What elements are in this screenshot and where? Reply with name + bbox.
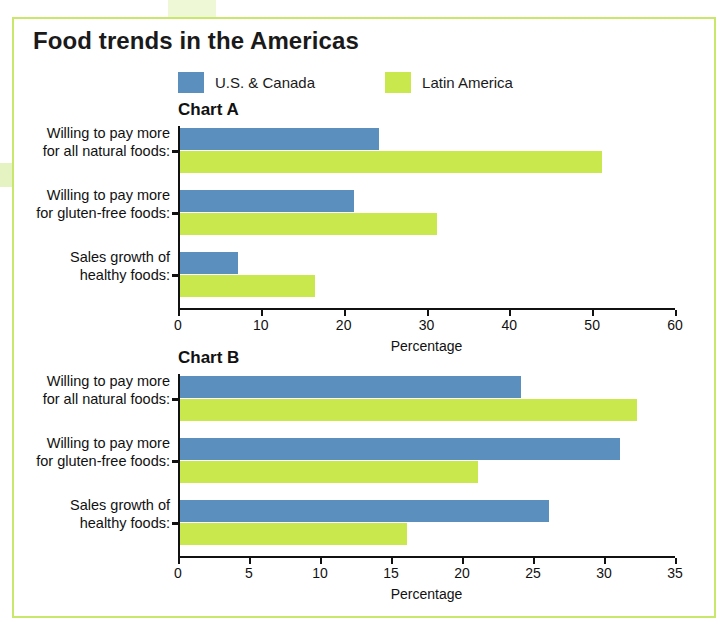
chart-b-xtick-2 <box>320 558 322 564</box>
category-label-line: for gluten-free foods: <box>10 204 170 222</box>
chart-a-bar-0-latin-america <box>180 151 602 173</box>
chart-a-xtick-label-6: 60 <box>667 317 683 333</box>
category-label-line: healthy foods: <box>10 514 170 532</box>
legend-label-us-canada: U.S. & Canada <box>215 74 315 91</box>
chart-a-bar-0-us-canada <box>180 128 379 150</box>
chart-a-bar-1-us-canada <box>180 190 354 212</box>
legend-label-latin-america: Latin America <box>422 74 513 91</box>
chart-legend: U.S. & Canada Latin America <box>178 72 513 93</box>
chart-b-xtick-label-5: 25 <box>525 565 541 581</box>
chart-a-xtick-label-4: 40 <box>502 317 518 333</box>
chart-b-xtick-label-6: 30 <box>596 565 612 581</box>
chart-b-bar-0-latin-america <box>180 399 637 421</box>
chart-a-bar-1-latin-america <box>180 213 437 235</box>
chart-b-category-label-1: Willing to pay morefor gluten-free foods… <box>10 434 170 470</box>
chart-b-xtick-label-2: 10 <box>312 565 328 581</box>
chart-b-plot-area: Percentage 05101520253035 <box>178 374 675 556</box>
chart-a-xtick-1 <box>261 310 263 316</box>
chart-b-xtick-0 <box>178 558 180 564</box>
page-title: Food trends in the Americas <box>33 27 359 55</box>
legend-item-us-canada: U.S. & Canada <box>178 72 315 93</box>
legend-swatch-us-canada <box>178 72 204 93</box>
chart-a-heading: Chart A <box>178 100 239 120</box>
chart-b-xtick-7 <box>675 558 677 564</box>
chart-page: Food trends in the Americas U.S. & Canad… <box>0 0 728 632</box>
category-label-line: for all natural foods: <box>10 142 170 160</box>
chart-b-ytick-2 <box>172 522 180 525</box>
chart-a-bar-2-us-canada <box>180 252 238 274</box>
chart-b-bar-2-us-canada <box>180 500 549 522</box>
chart-b-xtick-label-7: 35 <box>667 565 683 581</box>
chart-b-xtick-label-1: 5 <box>245 565 253 581</box>
chart-a-category-labels: Willing to pay morefor all natural foods… <box>8 126 170 308</box>
chart-b-xtick-label-0: 0 <box>174 565 182 581</box>
category-label-line: for all natural foods: <box>10 390 170 408</box>
category-label-line: Sales growth of <box>10 496 170 514</box>
chart-b-bar-1-us-canada <box>180 438 620 460</box>
chart-a-xtick-label-2: 20 <box>336 317 352 333</box>
chart-b-xtick-6 <box>604 558 606 564</box>
chart-a-category-label-1: Willing to pay morefor gluten-free foods… <box>10 186 170 222</box>
category-label-line: Willing to pay more <box>10 186 170 204</box>
chart-b-bar-2-latin-america <box>180 523 407 545</box>
chart-b-x-axis <box>178 556 675 558</box>
chart-a-xtick-3 <box>427 310 429 316</box>
chart-b-xtick-label-3: 15 <box>383 565 399 581</box>
chart-a-xtick-6 <box>675 310 677 316</box>
chart-a-ytick-2 <box>172 274 180 277</box>
chart-b-heading: Chart B <box>178 348 239 368</box>
chart-a-x-axis-title: Percentage <box>178 338 675 354</box>
chart-b-xtick-1 <box>249 558 251 564</box>
chart-a-plot-area: Percentage 0102030405060 <box>178 126 675 308</box>
chart-b-category-label-0: Willing to pay morefor all natural foods… <box>10 372 170 408</box>
chart-b-xtick-5 <box>533 558 535 564</box>
chart-a-xtick-label-1: 10 <box>253 317 269 333</box>
category-label-line: healthy foods: <box>10 266 170 284</box>
chart-b-ytick-1 <box>172 460 180 463</box>
chart-a-xtick-2 <box>344 310 346 316</box>
chart-b-xtick-4 <box>462 558 464 564</box>
chart-a-bar-2-latin-america <box>180 275 315 297</box>
legend-item-latin-america: Latin America <box>385 72 513 93</box>
category-label-line: Willing to pay more <box>10 434 170 452</box>
chart-b-xtick-3 <box>391 558 393 564</box>
chart-b-ytick-0 <box>172 398 180 401</box>
chart-b-category-label-2: Sales growth ofhealthy foods: <box>10 496 170 532</box>
chart-a-xtick-label-5: 50 <box>584 317 600 333</box>
category-label-line: Willing to pay more <box>10 372 170 390</box>
chart-a-xtick-4 <box>509 310 511 316</box>
chart-a-category-label-2: Sales growth ofhealthy foods: <box>10 248 170 284</box>
chart-a-xtick-5 <box>592 310 594 316</box>
chart-a-ytick-0 <box>172 150 180 153</box>
chart-a-xtick-label-0: 0 <box>174 317 182 333</box>
chart-a-ytick-1 <box>172 212 180 215</box>
category-label-line: Sales growth of <box>10 248 170 266</box>
chart-b-bar-0-us-canada <box>180 376 521 398</box>
chart-a-xtick-0 <box>178 310 180 316</box>
category-label-line: for gluten-free foods: <box>10 452 170 470</box>
legend-swatch-latin-america <box>385 72 411 93</box>
chart-b-xtick-label-4: 20 <box>454 565 470 581</box>
chart-b-category-labels: Willing to pay morefor all natural foods… <box>8 374 170 556</box>
chart-a-category-label-0: Willing to pay morefor all natural foods… <box>10 124 170 160</box>
chart-a-xtick-label-3: 30 <box>419 317 435 333</box>
chart-b-x-axis-title: Percentage <box>178 586 675 602</box>
category-label-line: Willing to pay more <box>10 124 170 142</box>
chart-b-bar-1-latin-america <box>180 461 478 483</box>
